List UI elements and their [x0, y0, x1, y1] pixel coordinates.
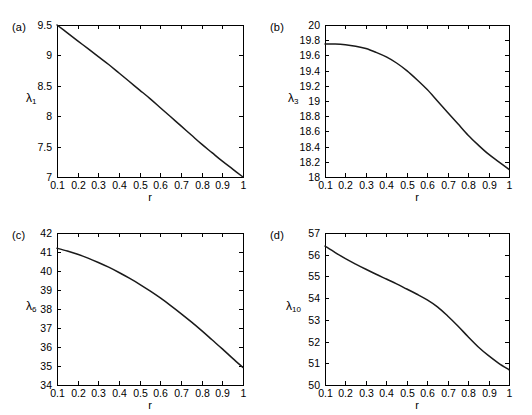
- subplot-panel-b: (b) λ3 r 0.10.20.30.40.50.60.70.80.91181…: [266, 0, 532, 207]
- y-tick-label: 18.8: [300, 110, 321, 122]
- x-tick-label: 0.9: [482, 387, 497, 399]
- y-tick-label: 54: [308, 292, 320, 304]
- x-tick-label: 0.7: [441, 387, 456, 399]
- x-tick-label: 0.4: [112, 179, 127, 191]
- y-tick-label: 8.5: [37, 80, 52, 92]
- y-tick-label: 41: [40, 246, 52, 258]
- x-tick-label: 0.1: [318, 179, 333, 191]
- y-tick-label: 34: [40, 379, 52, 391]
- x-tick-label: 0.9: [215, 179, 230, 191]
- y-tick-label: 9: [46, 49, 52, 61]
- axis-box: [326, 26, 510, 178]
- data-curve: [57, 25, 243, 177]
- y-tick-label: 50: [308, 379, 320, 391]
- x-tick-label: 0.3: [91, 179, 106, 191]
- x-tick-label: 0.8: [461, 387, 476, 399]
- y-tick-label: 40: [40, 265, 52, 277]
- x-tick-label: 1: [507, 179, 513, 191]
- x-tick-label: 0.6: [420, 179, 435, 191]
- x-tick-label: 0.8: [195, 387, 210, 399]
- x-tick-label: 0.3: [91, 387, 106, 399]
- x-tick-label: 1: [507, 387, 513, 399]
- x-tick-label: 0.5: [133, 179, 148, 191]
- y-tick-label: 38: [40, 303, 52, 315]
- y-tick-label: 20: [308, 19, 320, 31]
- x-tick-label: 0.1: [50, 387, 65, 399]
- y-tick-label: 36: [40, 341, 52, 353]
- x-tick-label: 0.2: [338, 387, 353, 399]
- plot-area-c: 0.10.20.30.40.50.60.70.80.91343536373839…: [0, 208, 266, 415]
- y-tick-label: 35: [40, 360, 52, 372]
- y-tick-label: 19.2: [300, 80, 321, 92]
- x-tick-label: 0.3: [359, 387, 374, 399]
- x-tick-label: 0.6: [153, 179, 168, 191]
- x-tick-label: 0.4: [379, 179, 394, 191]
- x-tick-label: 0.6: [153, 387, 168, 399]
- y-tick-label: 57: [308, 227, 320, 239]
- x-tick-label: 0.8: [195, 179, 210, 191]
- x-tick-label: 0.8: [461, 179, 476, 191]
- y-tick-label: 18.6: [300, 125, 321, 137]
- y-tick-label: 18: [308, 171, 320, 183]
- y-tick-label: 19: [308, 95, 320, 107]
- y-tick-label: 7.5: [37, 141, 52, 153]
- y-tick-label: 39: [40, 284, 52, 296]
- subplot-panel-a: (a) λ1 r 0.10.20.30.40.50.60.70.80.9177.…: [0, 0, 266, 207]
- x-tick-label: 0.9: [215, 387, 230, 399]
- y-tick-label: 18.4: [300, 141, 321, 153]
- y-tick-label: 42: [40, 227, 52, 239]
- x-tick-label: 0.5: [133, 387, 148, 399]
- y-tick-label: 7: [46, 171, 52, 183]
- x-tick-label: 0.7: [174, 387, 189, 399]
- y-tick-label: 51: [308, 357, 320, 369]
- x-tick-label: 0.7: [441, 179, 456, 191]
- y-tick-label: 52: [308, 336, 320, 348]
- x-tick-label: 0.4: [379, 387, 394, 399]
- y-tick-label: 19.8: [300, 34, 321, 46]
- y-tick-label: 8: [46, 110, 52, 122]
- data-curve: [325, 246, 509, 370]
- x-tick-label: 0.6: [420, 387, 435, 399]
- y-tick-label: 56: [308, 249, 320, 261]
- plot-area-a: 0.10.20.30.40.50.60.70.80.9177.588.599.5: [0, 0, 266, 207]
- y-tick-label: 53: [308, 314, 320, 326]
- data-curve: [57, 248, 243, 367]
- y-tick-label: 19.4: [300, 65, 321, 77]
- x-tick-label: 0.7: [174, 179, 189, 191]
- y-tick-label: 19.6: [300, 49, 321, 61]
- data-curve: [325, 44, 509, 169]
- x-tick-label: 0.4: [112, 387, 127, 399]
- x-tick-label: 0.3: [359, 179, 374, 191]
- x-tick-label: 0.2: [71, 179, 86, 191]
- x-tick-label: 0.1: [318, 387, 333, 399]
- plot-area-d: 0.10.20.30.40.50.60.70.80.91505152535455…: [266, 208, 532, 415]
- subplot-panel-c: (c) λ6 r 0.10.20.30.40.50.60.70.80.91343…: [0, 208, 266, 415]
- x-tick-label: 0.5: [400, 179, 415, 191]
- figure-canvas: (a) λ1 r 0.10.20.30.40.50.60.70.80.9177.…: [0, 0, 532, 415]
- subplot-panel-d: (d) λ10 r 0.10.20.30.40.50.60.70.80.9150…: [266, 208, 532, 415]
- x-tick-label: 1: [241, 179, 247, 191]
- x-tick-label: 0.1: [50, 179, 65, 191]
- x-tick-label: 0.9: [482, 179, 497, 191]
- axis-box: [326, 234, 510, 386]
- x-tick-label: 0.2: [71, 387, 86, 399]
- x-tick-label: 1: [241, 387, 247, 399]
- plot-area-b: 0.10.20.30.40.50.60.70.80.911818.218.418…: [266, 0, 532, 207]
- x-tick-label: 0.2: [338, 179, 353, 191]
- x-tick-label: 0.5: [400, 387, 415, 399]
- y-tick-label: 9.5: [37, 19, 52, 31]
- y-tick-label: 55: [308, 270, 320, 282]
- y-tick-label: 37: [40, 322, 52, 334]
- y-tick-label: 18.2: [300, 156, 321, 168]
